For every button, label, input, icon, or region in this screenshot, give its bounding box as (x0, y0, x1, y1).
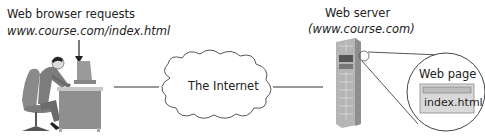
server-domain: (www.course.com) (308, 22, 415, 36)
client-label: Web browser requests (7, 7, 135, 21)
server-label: Web server (325, 6, 390, 20)
client-url: www.course.com/index.html (7, 24, 170, 38)
web-page-label: Web page (419, 67, 476, 81)
internet-label: The Internet (188, 79, 259, 93)
web-server-tower-illustration (336, 38, 361, 128)
user-at-computer-illustration (22, 57, 103, 132)
web-page-filename: index.html (424, 96, 483, 110)
request-arrow (75, 40, 83, 63)
